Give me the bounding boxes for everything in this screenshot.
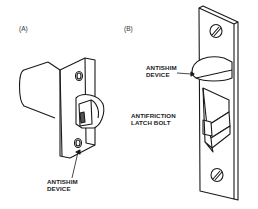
panel-b-antishim-line2: DEVICE: [146, 71, 177, 78]
panel-b-antishim-label: ANTISHIM DEVICE: [146, 64, 177, 78]
panel-a-antishim-line2: DEVICE: [47, 185, 78, 192]
panel-a-antishim-line1: ANTISHIM: [47, 178, 78, 185]
panel-a-latch-drawing: [20, 58, 104, 178]
panel-b-tag: (B): [124, 25, 133, 32]
panel-b-antifriction-line1: ANTIFRICTION: [131, 112, 176, 119]
panel-b-antifriction-line2: LATCH BOLT: [131, 119, 176, 126]
panel-b-antifriction-label: ANTIFRICTION LATCH BOLT: [131, 112, 176, 126]
panel-b-faceplate-drawing: [177, 6, 238, 200]
panel-a-tag: (A): [19, 25, 28, 32]
panel-a-antishim-label: ANTISHIM DEVICE: [47, 178, 78, 192]
panel-b-antishim-line1: ANTISHIM: [146, 64, 177, 71]
